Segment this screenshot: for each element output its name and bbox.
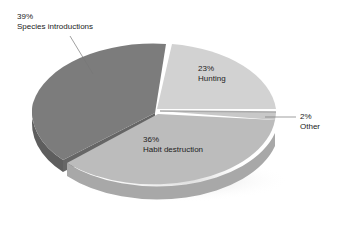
label-hunting-pct: 23% xyxy=(198,64,226,74)
label-other-pct: 2% xyxy=(300,112,320,122)
label-hunting-name: Hunting xyxy=(198,74,226,84)
label-habit: 36% Habit destruction xyxy=(143,135,203,155)
label-habit-pct: 36% xyxy=(143,135,203,145)
pie-chart xyxy=(0,0,343,228)
label-species: 39% Species introductions xyxy=(17,12,93,32)
label-other-name: Other xyxy=(300,122,320,132)
slice-other-edge xyxy=(160,111,276,112)
label-species-pct: 39% xyxy=(17,12,93,22)
label-habit-name: Habit destruction xyxy=(143,145,203,155)
label-other: 2% Other xyxy=(300,112,320,132)
label-hunting: 23% Hunting xyxy=(198,64,226,84)
label-species-name: Species introductions xyxy=(17,22,93,32)
